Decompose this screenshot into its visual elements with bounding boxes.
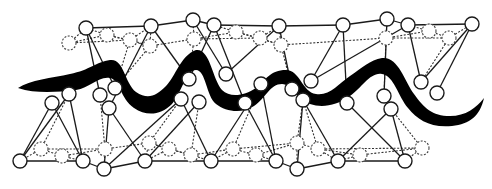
front-atom-node (207, 18, 221, 32)
front-atom-node (219, 67, 233, 81)
front-atom-node (192, 95, 206, 109)
back-atom-node (62, 36, 76, 50)
front-atom-node (296, 93, 310, 107)
front-atom-node (340, 96, 354, 110)
front-atom-node (138, 154, 152, 168)
layered-structure-diagram (0, 0, 492, 189)
front-atom-node (290, 162, 304, 176)
front-atom-node (269, 154, 283, 168)
back-atom-node (311, 142, 325, 156)
back-atom-node (379, 31, 393, 45)
back-atom-node (229, 25, 243, 39)
front-atom-node (97, 162, 111, 176)
back-atom-node (422, 24, 436, 38)
back-atom-node (249, 148, 263, 162)
front-atom-node (304, 74, 318, 88)
front-atom-node (465, 17, 479, 31)
back-atom-node (143, 39, 157, 53)
back-atom-node (184, 148, 198, 162)
front-atom-node (238, 96, 252, 110)
front-atom-node (254, 77, 268, 91)
back-atom-node (274, 38, 288, 52)
back-atom-node (123, 33, 137, 47)
front-atom-node (430, 86, 444, 100)
back-atom-node (142, 136, 156, 150)
back-atom-node (34, 142, 48, 156)
back-atom-node (162, 142, 176, 156)
back-atom-node (100, 28, 114, 42)
front-atom-node (398, 154, 412, 168)
front-atom-node (331, 154, 345, 168)
front-atom-node (45, 96, 59, 110)
front-atom-node (272, 19, 286, 33)
front-atom-node (102, 101, 116, 115)
front-atom-node (79, 21, 93, 35)
front-atom-node (377, 89, 391, 103)
front-atom-node (13, 154, 27, 168)
front-atom-node (144, 19, 158, 33)
front-atom-node (401, 18, 415, 32)
front-atom-node (414, 75, 428, 89)
back-atom-node (187, 32, 201, 46)
back-atom-node (353, 148, 367, 162)
back-atom-node (98, 142, 112, 156)
front-atom-node (182, 72, 196, 86)
back-atom-node (253, 31, 267, 45)
back-atom-node (442, 31, 456, 45)
back-atom-node (226, 142, 240, 156)
front-atom-node (384, 102, 398, 116)
front-atom-node (93, 88, 107, 102)
front-atom-node (108, 81, 122, 95)
back-atom-node (290, 136, 304, 150)
front-atom-node (76, 154, 90, 168)
front-atom-node (380, 12, 394, 26)
front-atom-node (336, 18, 350, 32)
front-atom-node (186, 13, 200, 27)
front-atom-node (62, 87, 76, 101)
front-atom-node (285, 82, 299, 96)
front-atom-node (174, 92, 188, 106)
back-atom-node (55, 149, 69, 163)
back-atom-node (415, 141, 429, 155)
front-atom-node (204, 154, 218, 168)
